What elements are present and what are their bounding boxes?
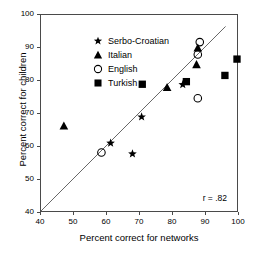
data-point [233,55,240,62]
x-axis-title: Percent correct for networks [40,232,238,243]
x-tick-label-60: 60 [95,217,117,226]
legend-item-italian[interactable]: Italian [92,48,169,62]
legend-label: English [108,64,138,74]
data-point [60,122,69,130]
legend-label: Italian [108,50,132,60]
x-tick-label-40: 40 [29,217,51,226]
y-axis-title: Percent correct for children [17,25,28,195]
x-tick-mark-80 [172,212,173,215]
triangle-icon [92,49,104,61]
legend: Serbo-CroatianItalianEnglishTurkish [92,34,169,90]
data-point [192,60,201,68]
x-tick-mark-60 [106,212,107,215]
legend-item-serbo-croatian[interactable]: Serbo-Croatian [92,34,169,48]
legend-label: Serbo-Croatian [108,36,169,46]
legend-label: Turkish [108,78,137,88]
square-icon [92,77,104,89]
data-point [194,95,202,103]
x-tick-mark-100 [238,212,239,215]
x-tick-label-70: 70 [128,217,150,226]
data-point [183,78,190,85]
x-tick-mark-70 [139,212,140,215]
x-tick-mark-50 [73,212,74,215]
data-point [196,38,204,46]
legend-item-turkish[interactable]: Turkish [92,76,169,90]
star-icon [92,35,104,47]
plot-area: Serbo-CroatianItalianEnglishTurkish r = … [40,14,238,212]
y-tick-label-100: 100 [12,9,34,18]
legend-item-english[interactable]: English [92,62,169,76]
circle-open-icon [92,63,104,75]
x-tick-label-50: 50 [62,217,84,226]
x-tick-label-80: 80 [161,217,183,226]
series-serbo-croatian [106,80,187,157]
scatter-plot-figure: 405060708090100 405060708090100 Percent … [0,0,259,254]
x-tick-label-100: 100 [227,217,249,226]
x-tick-mark-40 [40,212,41,215]
data-point [128,149,137,157]
y-tick-label-40: 40 [12,207,34,216]
correlation-annotation: r = .82 [203,193,227,203]
data-point [98,149,106,157]
data-point [106,138,115,146]
x-tick-label-90: 90 [194,217,216,226]
data-point [221,72,228,79]
x-tick-mark-90 [205,212,206,215]
